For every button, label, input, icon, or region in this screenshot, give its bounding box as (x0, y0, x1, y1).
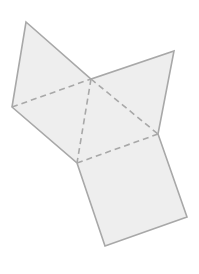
triangle-net-diagram (0, 0, 199, 274)
net-outline (12, 22, 187, 246)
